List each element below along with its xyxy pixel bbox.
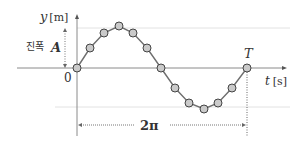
sample-point [143, 44, 151, 52]
y-axis-arrow-icon [75, 14, 79, 19]
sample-point [115, 22, 123, 30]
sine-wave-diagram: y[m] 진폭 A 0 T t[s] 2π [0, 0, 304, 146]
sample-point [86, 44, 94, 52]
y-axis-label: y[m] [39, 9, 68, 24]
sample-point [243, 64, 251, 72]
period-label: T [244, 46, 254, 61]
t-axis-label: t[s] [265, 74, 287, 88]
sample-point [171, 84, 179, 92]
period-span-label: 2π [140, 118, 159, 133]
sample-point [157, 64, 165, 72]
sample-point [73, 64, 81, 72]
sample-point [228, 84, 236, 92]
amplitude-arrow-down-icon [63, 64, 67, 68]
amplitude-arrow-up-icon [63, 28, 67, 32]
sample-point [214, 99, 222, 107]
amplitude-label-korean: 진폭 [26, 41, 44, 52]
period-span-right-arrow-icon [242, 123, 246, 127]
origin-label: 0 [64, 71, 72, 85]
sample-point [129, 29, 137, 37]
sample-point [200, 105, 208, 113]
t-axis-arrow-icon [282, 66, 287, 70]
sample-point [100, 29, 108, 37]
amplitude-symbol: A [49, 40, 61, 55]
period-span-left-arrow-icon [78, 123, 82, 127]
sample-point [185, 99, 193, 107]
